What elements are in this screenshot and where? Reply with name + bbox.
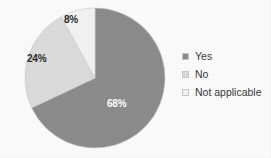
- pie-plot-area: 68% 24% 8%: [0, 0, 175, 158]
- legend-label-no: No: [195, 69, 208, 80]
- legend-swatch-yes: [182, 53, 189, 60]
- pie-svg: [0, 0, 175, 158]
- slice-label-yes: 68%: [107, 99, 126, 109]
- legend-label-yes: Yes: [195, 51, 212, 62]
- legend-swatch-no: [182, 71, 189, 78]
- slice-label-no: 24%: [27, 54, 46, 64]
- pie-chart-figure: 68% 24% 8% Yes No Not applicable: [0, 0, 271, 158]
- legend-swatch-not-applicable: [182, 89, 189, 96]
- legend-item-not-applicable[interactable]: Not applicable: [182, 84, 271, 101]
- pie-slice-group: [25, 8, 165, 148]
- legend-item-no[interactable]: No: [182, 66, 271, 83]
- chart-legend: Yes No Not applicable: [182, 48, 271, 102]
- slice-label-not-applicable: 8%: [64, 15, 78, 25]
- legend-label-not-applicable: Not applicable: [195, 87, 262, 98]
- legend-item-yes[interactable]: Yes: [182, 48, 271, 65]
